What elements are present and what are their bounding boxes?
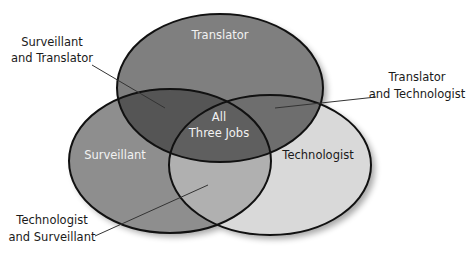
label-all-three-line1: All — [212, 110, 226, 124]
venn-diagram: Translator Surveillant Technologist All … — [0, 0, 471, 255]
label-technologist: Technologist — [281, 148, 354, 162]
label-translator: Translator — [191, 28, 249, 42]
callout-surveillant-translator-line2: and Translator — [11, 51, 93, 65]
callout-translator-technologist-line2: and Technologist — [369, 87, 466, 101]
label-surveillant: Surveillant — [84, 148, 146, 162]
callout-surveillant-translator-line1: Surveillant — [21, 35, 83, 49]
callout-translator-technologist-line1: Translator — [388, 70, 446, 84]
callout-technologist-surveillant-line1: Technologist — [15, 213, 88, 227]
label-all-three-line2: Three Jobs — [188, 126, 249, 140]
callout-technologist-surveillant-line2: and Surveillant — [9, 230, 96, 244]
